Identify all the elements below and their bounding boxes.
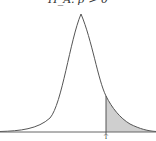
critical-value-label: T	[102, 133, 110, 140]
distribution-chart: H_A: β > 0 T	[0, 0, 156, 141]
density-curve	[0, 14, 156, 132]
chart-title: H_A: β > 0	[0, 0, 156, 6]
rejection-region	[106, 96, 156, 132]
chart-plot	[0, 0, 156, 141]
